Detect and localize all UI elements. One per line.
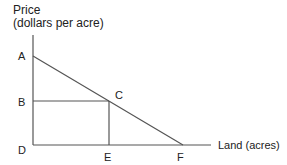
point-label-d: D (18, 144, 26, 156)
point-label-f: F (177, 151, 184, 163)
y-axis-title-line1: Price (13, 4, 40, 16)
y-axis-title-line2: (dollars per acre) (13, 17, 104, 29)
x-axis-title: Land (acres) (218, 139, 280, 151)
point-label-c: C (115, 89, 123, 101)
point-label-a: A (18, 50, 25, 62)
point-label-b: B (18, 96, 25, 108)
point-label-e: E (104, 151, 111, 163)
